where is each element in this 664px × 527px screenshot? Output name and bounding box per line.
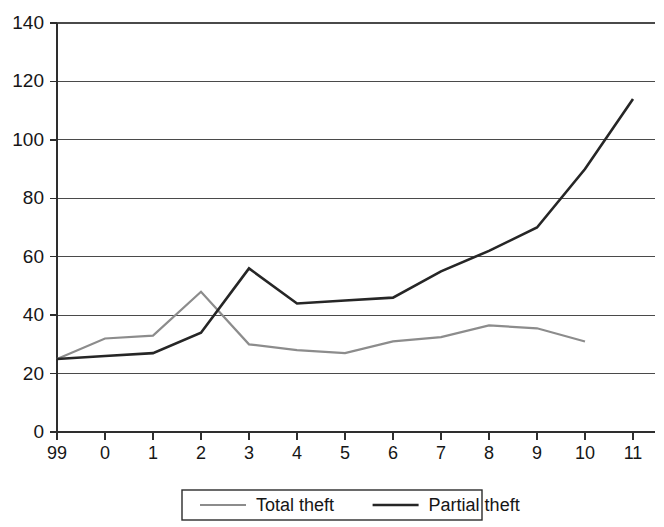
data-series-group <box>57 99 633 359</box>
line-chart: 020406080100120140 9901234567891011 Tota… <box>0 0 664 527</box>
x-tick-label: 99 <box>47 443 67 463</box>
chart-legend: Total theftPartial theft <box>182 490 520 520</box>
y-tick-label: 40 <box>23 304 44 325</box>
y-tick-label: 20 <box>23 363 44 384</box>
x-tick-label: 1 <box>148 443 158 463</box>
x-tick-marks-group <box>57 432 633 440</box>
y-tick-label: 60 <box>23 246 44 267</box>
legend-label: Total theft <box>256 495 334 515</box>
x-tick-label: 7 <box>436 443 446 463</box>
y-tick-label: 120 <box>12 70 44 91</box>
x-tick-label: 8 <box>484 443 494 463</box>
chart-canvas: 020406080100120140 9901234567891011 Tota… <box>0 0 664 527</box>
y-tick-marks-group <box>50 23 57 432</box>
legend-items-group: Total theftPartial theft <box>200 495 520 515</box>
y-tick-label: 80 <box>23 187 44 208</box>
legend-label: Partial theft <box>429 495 520 515</box>
x-tick-label: 11 <box>624 443 643 463</box>
y-tick-label: 0 <box>33 421 44 442</box>
x-tick-label: 2 <box>196 443 206 463</box>
gridlines-group <box>57 23 655 374</box>
x-tick-label: 0 <box>100 443 110 463</box>
y-axis-tick-labels: 020406080100120140 <box>12 12 44 442</box>
x-tick-label: 3 <box>244 443 254 463</box>
x-tick-label: 4 <box>292 443 302 463</box>
x-tick-label: 9 <box>532 443 542 463</box>
x-axis-tick-labels: 9901234567891011 <box>47 443 642 463</box>
x-tick-label: 6 <box>388 443 398 463</box>
x-tick-label: 10 <box>575 443 595 463</box>
x-tick-label: 5 <box>340 443 350 463</box>
y-tick-label: 100 <box>12 129 44 150</box>
y-tick-label: 140 <box>12 12 44 33</box>
series-line-partial-theft <box>57 99 633 359</box>
